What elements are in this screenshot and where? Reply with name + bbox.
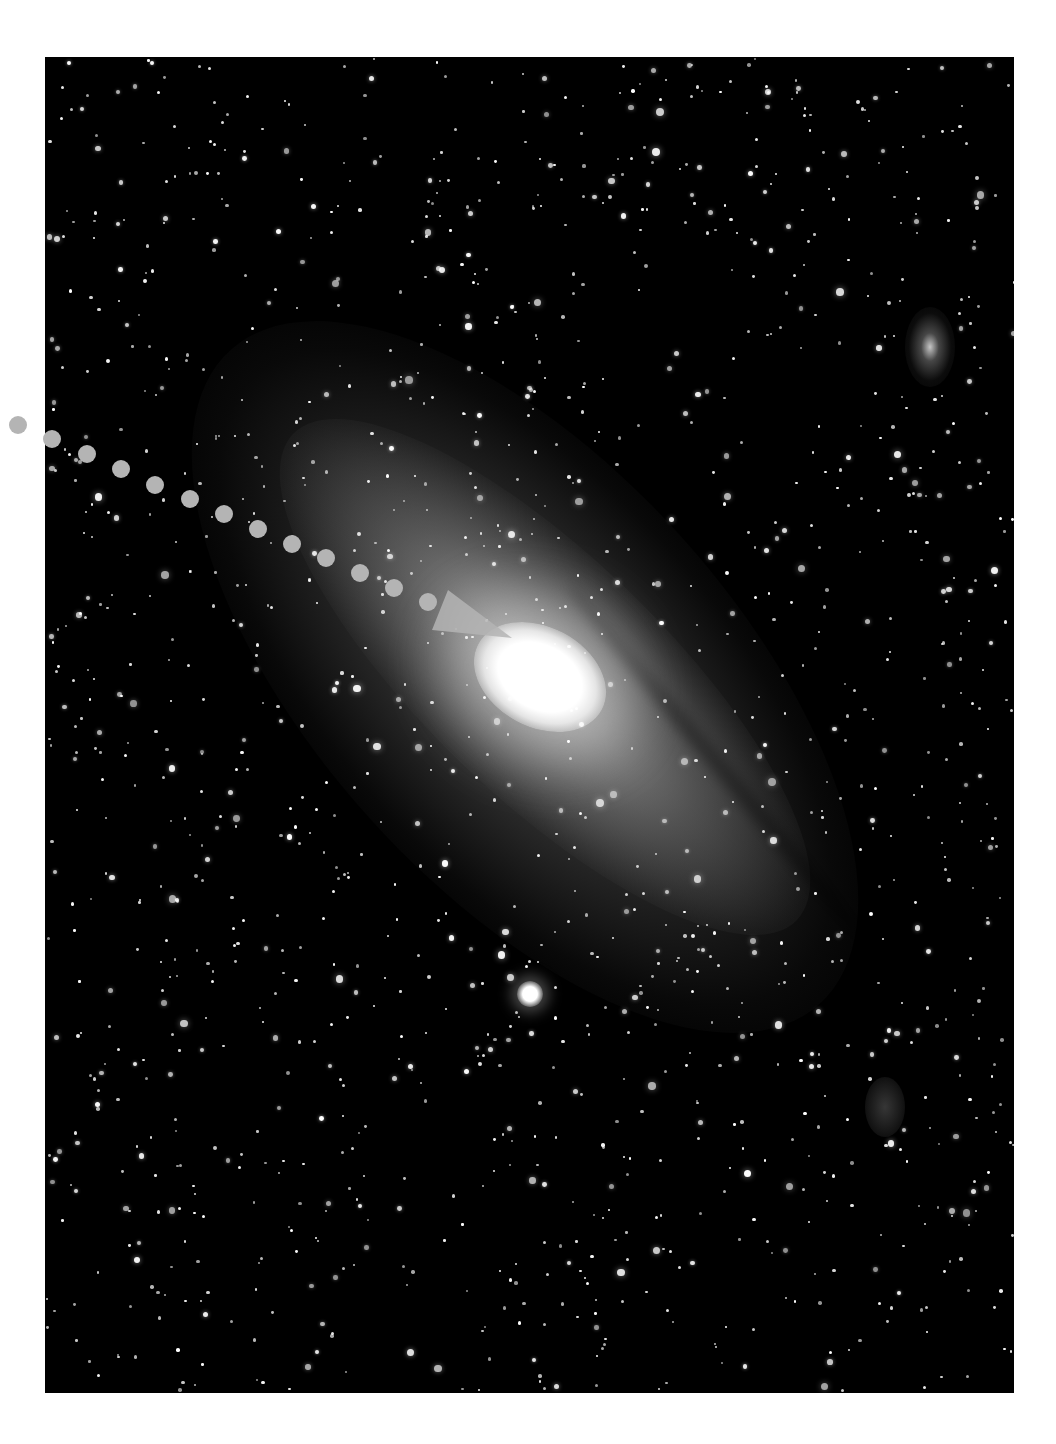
- galaxy-photograph: [45, 57, 1014, 1393]
- companion-galaxy-bright-star: [517, 981, 543, 1007]
- arrow-dot: [9, 416, 27, 434]
- companion-galaxy-upper: [905, 307, 955, 387]
- faint-star-cloud: [865, 1077, 905, 1137]
